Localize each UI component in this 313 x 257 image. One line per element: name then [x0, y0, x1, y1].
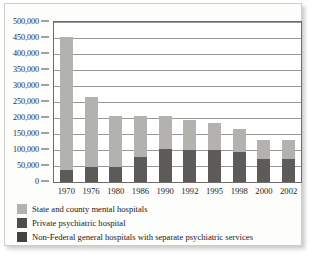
x-axis-tick-label-1990: 1990: [157, 186, 174, 196]
bar-2002: [282, 140, 295, 182]
y-axis-tick-label: 350,000: [13, 65, 39, 74]
bar-segment-state-county-1990: [159, 116, 172, 149]
bar-segment-state-county-1976: [85, 97, 98, 167]
y-axis-tick-mark: [41, 133, 49, 134]
y-axis-tick-label: 300,000: [13, 81, 39, 90]
y-axis-tick-mark: [41, 85, 49, 86]
legend-swatch-state-county: [17, 204, 27, 214]
bar-segment-non-federal-1986: [134, 157, 147, 182]
bar-segment-state-county-1986: [134, 116, 147, 156]
x-axis-tick-label-1970: 1970: [58, 186, 75, 196]
bar-1992: [183, 120, 196, 182]
y-axis-tick-label: 200,000: [13, 113, 39, 122]
y-axis-tick-mark: [41, 165, 49, 166]
bar-segment-non-federal-2002: [282, 159, 295, 182]
bar-segment-state-county-1998: [233, 129, 246, 152]
x-axis-tick-label-1986: 1986: [132, 186, 149, 196]
bar-segment-state-county-1995: [208, 123, 221, 150]
bar-segment-non-federal-1990: [159, 149, 172, 182]
y-axis-tick-mark: [41, 53, 49, 54]
y-axis-tick-mark: [41, 181, 49, 182]
legend-item: Private psychiatric hospital: [17, 216, 302, 229]
bar-segment-non-federal-1976: [85, 167, 98, 182]
x-axis-tick-label-1995: 1995: [206, 186, 223, 196]
y-axis-tick-label: 450,000: [13, 33, 39, 42]
bar-segment-non-federal-1992: [183, 150, 196, 182]
x-axis-tick-label-2002: 2002: [280, 186, 297, 196]
bars-layer: [54, 22, 301, 182]
bar-segment-state-county-2000: [257, 140, 270, 159]
legend-item: State and county mental hospitals: [17, 202, 302, 215]
y-axis-tick-label: 50,000: [17, 161, 39, 170]
y-axis-tick-mark: [41, 21, 49, 22]
bar-segment-state-county-2002: [282, 140, 295, 159]
x-axis-tick-label-1980: 1980: [107, 186, 124, 196]
bar-segment-state-county-1992: [183, 120, 196, 150]
x-axis-tick-label-1992: 1992: [181, 186, 198, 196]
y-axis-tick-label: 400,000: [13, 49, 39, 58]
bar-1998: [233, 129, 246, 182]
bar-1970: [60, 37, 73, 182]
y-axis-tick-mark: [41, 101, 49, 102]
legend-item: Non-Federal general hospitals with separ…: [17, 230, 302, 243]
y-axis-labels: 500,000450,000400,000350,000300,000250,0…: [5, 21, 49, 183]
bar-1990: [159, 116, 172, 182]
y-axis-tick-label: 100,000: [13, 145, 39, 154]
x-axis-labels: 1970197619801986199019921995199820002002: [54, 186, 301, 200]
bar-1995: [208, 123, 221, 182]
y-axis-tick-label: 150,000: [13, 129, 39, 138]
bar-segment-non-federal-1995: [208, 150, 221, 182]
bar-segment-non-federal-1998: [233, 152, 246, 182]
bar-1976: [85, 97, 98, 182]
bar-segment-state-county-1970: [60, 37, 73, 170]
legend-item-label: State and county mental hospitals: [32, 204, 148, 214]
y-axis-tick-mark: [41, 37, 49, 38]
bar-segment-non-federal-1980: [109, 167, 122, 182]
bar-segment-non-federal-1970: [60, 170, 73, 182]
y-axis-tick-mark: [41, 69, 49, 70]
y-axis-tick-label: 0: [35, 177, 39, 186]
screenshot-root: 500,000450,000400,000350,000300,000250,0…: [0, 0, 313, 257]
chart-legend: State and county mental hospitalsPrivate…: [17, 202, 302, 244]
y-axis-tick-mark: [41, 149, 49, 150]
legend-item-label: Non-Federal general hospitals with separ…: [32, 232, 253, 242]
x-axis-tick-label-1976: 1976: [82, 186, 99, 196]
bar-segment-non-federal-2000: [257, 159, 270, 182]
legend-swatch-private-psychiatric: [17, 218, 27, 228]
bar-1986: [134, 116, 147, 182]
legend-item-label: Private psychiatric hospital: [32, 218, 126, 228]
bar-1980: [109, 116, 122, 182]
chart-page-card: 500,000450,000400,000350,000300,000250,0…: [4, 3, 302, 246]
legend-swatch-non-federal: [17, 232, 27, 242]
y-axis-tick-label: 250,000: [13, 97, 39, 106]
x-axis-tick-label-1998: 1998: [231, 186, 248, 196]
bar-2000: [257, 140, 270, 182]
bar-segment-state-county-1980: [109, 116, 122, 166]
y-axis-tick-mark: [41, 117, 49, 118]
y-axis-tick-label: 500,000: [13, 17, 39, 26]
x-axis-tick-label-2000: 2000: [255, 186, 272, 196]
